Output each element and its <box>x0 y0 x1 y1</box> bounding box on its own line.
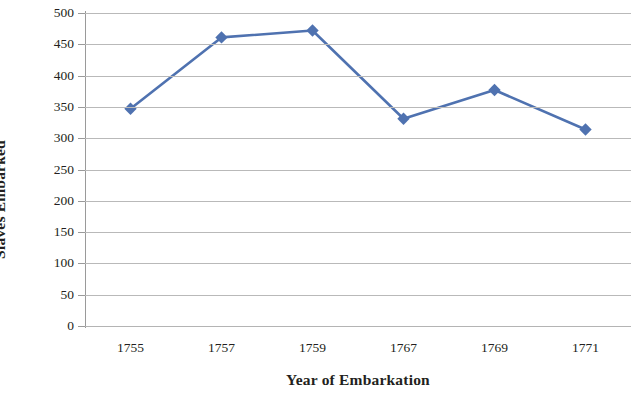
gridline <box>85 44 631 45</box>
y-axis-tick-label: 0 <box>4 319 74 333</box>
y-axis-tick-label: 50 <box>4 288 74 302</box>
y-axis-tick-label: 300 <box>4 131 74 145</box>
gridline <box>85 13 631 14</box>
y-axis-tick <box>78 263 85 264</box>
y-axis-tick <box>78 201 85 202</box>
data-point-marker <box>579 123 591 135</box>
y-axis-tick-label: 200 <box>4 194 74 208</box>
y-axis-tick-label: 350 <box>4 100 74 114</box>
y-axis-tick <box>78 44 85 45</box>
gridline <box>85 201 631 202</box>
y-axis-tick-labels: 050100150200250300350400450500 <box>0 0 74 399</box>
y-axis-tick-label: 400 <box>4 69 74 83</box>
line-chart-figure: Slaves Embarked 050100150200250300350400… <box>0 0 637 399</box>
y-axis-tick <box>78 326 85 327</box>
y-axis-tick <box>78 13 85 14</box>
y-axis-tick <box>78 170 85 171</box>
gridline <box>85 326 631 327</box>
gridline <box>85 232 631 233</box>
y-axis-tick-label: 450 <box>4 37 74 51</box>
x-axis-title: Year of Embarkation <box>85 371 631 389</box>
gridline <box>85 263 631 264</box>
x-axis-tick-label: 1771 <box>572 340 599 355</box>
gridline <box>85 76 631 77</box>
series-line <box>131 31 586 130</box>
gridline <box>85 295 631 296</box>
x-axis-tick-label: 1767 <box>390 340 417 355</box>
y-axis-tick <box>78 295 85 296</box>
y-axis-tick-label: 150 <box>4 225 74 239</box>
data-point-marker <box>488 84 500 96</box>
x-axis-tick-label: 1755 <box>117 340 144 355</box>
x-axis-tick-label: 1759 <box>299 340 326 355</box>
plot-area <box>85 13 631 326</box>
x-axis-tick-labels: 175517571759176717691771 <box>85 340 631 362</box>
gridline <box>85 138 631 139</box>
y-axis-tick <box>78 138 85 139</box>
x-axis-tick-label: 1769 <box>481 340 508 355</box>
gridline <box>85 107 631 108</box>
y-axis-tick <box>78 107 85 108</box>
y-axis-tick-label: 100 <box>4 256 74 270</box>
gridline <box>85 170 631 171</box>
y-axis-tick <box>78 232 85 233</box>
y-axis-tick-label: 250 <box>4 163 74 177</box>
y-axis-tick <box>78 76 85 77</box>
y-axis-tick-label: 500 <box>4 6 74 20</box>
x-axis-tick-label: 1757 <box>208 340 235 355</box>
